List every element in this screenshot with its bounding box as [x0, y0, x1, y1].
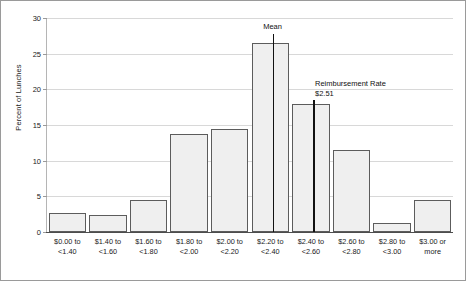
bar-slot: [412, 18, 453, 232]
bar-slot: [372, 18, 413, 232]
bar-slot: [169, 18, 210, 232]
histogram-bar[interactable]: [252, 43, 289, 232]
x-tick-label: $1.40 to <1.60: [88, 237, 129, 256]
annotation-line-mean: [273, 34, 275, 232]
y-axis-title: Percent of Lunches: [14, 43, 23, 153]
annotation-label-reimbursement-rate: Reimbursement Rate$2.51: [315, 79, 386, 98]
annotation-label-mean: Mean: [263, 22, 282, 32]
bar-series: [47, 18, 453, 232]
x-tick-label: $2.00 to <2.20: [209, 237, 250, 256]
x-axis-line: [46, 232, 453, 233]
histogram-bar[interactable]: [170, 134, 207, 232]
histogram-bar[interactable]: [49, 213, 86, 232]
x-tick-label: $2.40 to <2.60: [291, 237, 332, 256]
histogram-bar[interactable]: [414, 200, 451, 232]
histogram-figure: Percent of Lunches 0 5 10 15 20: [0, 0, 466, 281]
ytick-label: 30: [33, 14, 41, 23]
annotation-label-line-1: Reimbursement Rate: [315, 79, 386, 89]
bar-slot: [47, 18, 88, 232]
histogram-bar[interactable]: [292, 104, 329, 232]
bar-slot: [291, 18, 332, 232]
ytick-label: 25: [33, 49, 41, 58]
x-tick-label: $2.80 to <3.00: [372, 237, 413, 256]
bar-slot: [209, 18, 250, 232]
annotation-label-line-2: $2.51: [315, 89, 386, 99]
bar-slot: [250, 18, 291, 232]
x-tick-label: $2.20 to <2.40: [250, 237, 291, 256]
histogram-bar[interactable]: [89, 215, 126, 232]
bar-slot: [88, 18, 129, 232]
ytick-label: 0: [37, 228, 41, 237]
x-tick-label: $3.00 or more: [412, 237, 453, 256]
x-tick-label: $1.80 to <2.00: [169, 237, 210, 256]
bar-slot: [128, 18, 169, 232]
histogram-bar[interactable]: [373, 223, 410, 232]
histogram-bar[interactable]: [130, 200, 167, 232]
ytick-label: 10: [33, 156, 41, 165]
ytick-label: 5: [37, 192, 41, 201]
bar-slot: [331, 18, 372, 232]
x-tick-label: $2.60 to <2.80: [331, 237, 372, 256]
x-axis-tick-labels: $0.00 to <1.40$1.40 to <1.60$1.60 to <1.…: [47, 237, 453, 256]
x-tick-label: $0.00 to <1.40: [47, 237, 88, 256]
ytick-label: 20: [33, 85, 41, 94]
histogram-bar[interactable]: [211, 129, 248, 232]
ytick-label: 15: [33, 121, 41, 130]
x-tick-label: $1.60 to <1.80: [128, 237, 169, 256]
annotation-line-reimbursement-rate: [313, 100, 315, 232]
histogram-bar[interactable]: [333, 150, 370, 232]
plot-area: 0 5 10 15 20 25 30: [47, 18, 453, 232]
